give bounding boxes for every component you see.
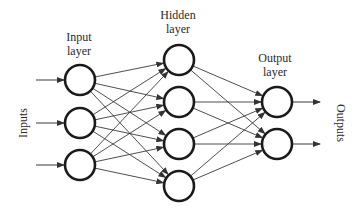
hidden-layer-label-line2: layer xyxy=(166,22,190,36)
hidden-node xyxy=(164,129,194,159)
connection-edge xyxy=(90,91,168,174)
input-node xyxy=(65,65,95,95)
input-node xyxy=(65,150,95,180)
input-layer-label-line2: layer xyxy=(67,44,91,58)
connection-edge xyxy=(95,63,164,77)
output-node xyxy=(262,129,292,159)
outputs-label: Outputs xyxy=(334,104,348,142)
output-layer-label-line1: Output xyxy=(258,51,292,65)
nodes xyxy=(65,45,292,201)
hidden-layer-label-line1: Hidden xyxy=(160,8,195,22)
neural-network-diagram: Input layer Hidden layer Output layer In… xyxy=(0,0,355,214)
output-node xyxy=(262,87,292,117)
connection-edge xyxy=(90,72,168,154)
network-svg: Input layer Hidden layer Output layer In… xyxy=(0,0,355,214)
input-layer-label-line1: Input xyxy=(66,30,92,44)
hidden-node xyxy=(164,87,194,117)
inputs-label: Inputs xyxy=(16,108,30,138)
hidden-node xyxy=(164,171,194,201)
input-node xyxy=(65,108,95,138)
connection-edge xyxy=(95,168,164,183)
output-layer-label-line2: layer xyxy=(263,65,287,79)
connection-edges xyxy=(90,63,265,183)
hidden-node xyxy=(164,45,194,75)
